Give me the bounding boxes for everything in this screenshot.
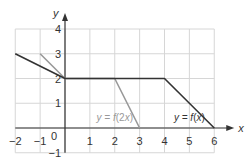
x-tick-label: 1 [87,135,93,147]
series-label: y = f(x) [173,112,205,123]
y-axis-arrow-icon [62,13,68,21]
x-tick-label: 5 [186,135,192,147]
y-tick-label: 3 [55,48,61,60]
axes [15,13,234,153]
y-axis-label: y [52,7,60,19]
y-tick-label: −1 [48,147,61,159]
y-tick-label: 4 [55,23,61,35]
x-axis-label: x [237,122,244,134]
x-tick-label: 4 [161,135,167,147]
y-tick-label: 1 [55,97,61,109]
x-axis-arrow-icon [226,125,234,131]
x-tick-label: −2 [9,135,22,147]
x-tick-label: 2 [112,135,118,147]
x-tick-label: −1 [34,135,47,147]
function-graph: xy−2−1123456−112340 y = f(x)y = f(2x) [0,0,245,164]
x-tick-label: 3 [137,135,143,147]
tick-labels: xy−2−1123456−112340 [9,7,244,159]
series-label: y = f(2x) [96,112,133,123]
origin-label: 0 [51,130,57,142]
series-labels: y = f(x)y = f(2x) [96,112,205,123]
x-tick-label: 6 [211,135,217,147]
y-tick-label: 2 [55,73,61,85]
